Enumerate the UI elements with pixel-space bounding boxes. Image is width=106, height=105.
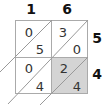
cell-tens-digit: 2 bbox=[60, 61, 68, 76]
cell-ones-digit: 4 bbox=[73, 79, 81, 94]
right-digit: 5 bbox=[92, 30, 102, 46]
cell-tens-digit: 0 bbox=[25, 25, 33, 40]
top-digit: 1 bbox=[26, 1, 36, 17]
cell-ones-digit: 5 bbox=[36, 42, 44, 57]
cell-ones-digit: 4 bbox=[36, 79, 44, 94]
cell-ones-digit: 0 bbox=[73, 42, 81, 57]
cell-tens-digit: 3 bbox=[59, 25, 67, 40]
top-digit: 6 bbox=[62, 1, 72, 17]
cell-tens-digit: 0 bbox=[25, 61, 33, 76]
lattice-diagram: 1 6 5 4 0 5 3 0 0 4 2 4 bbox=[0, 0, 106, 105]
right-digit: 4 bbox=[92, 66, 102, 82]
